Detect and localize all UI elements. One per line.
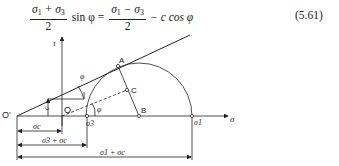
dashed-oc-line [62, 90, 127, 116]
sigma-label: σ [230, 114, 235, 124]
cohesion-label: c [42, 106, 51, 110]
phi-arc-top [78, 86, 84, 99]
dim-label-sigma-c: σc [33, 122, 41, 131]
label-b: B [141, 106, 146, 115]
point-sigma3 [85, 114, 88, 117]
failure-envelope-line [17, 35, 190, 116]
dim-label-sigma3-plus-sigma-c: σ3 + σc [42, 136, 67, 145]
mohr-coulomb-diagram: τ σ O' O A C B σ3 σ1 φ φ c σc σ3 + σc σ1… [0, 0, 339, 166]
mohr-circle-arc [86, 63, 192, 116]
phi-arc-bottom [92, 103, 95, 116]
dim-label-sigma1-plus-sigma-c: σ1 + σc [100, 148, 125, 157]
phi-label-top: φ [80, 72, 85, 81]
label-o-prime: O' [2, 110, 11, 120]
label-c: C [131, 86, 137, 95]
phi-label-bottom: φ [97, 105, 102, 114]
point-c [125, 88, 128, 91]
label-a: A [119, 56, 125, 65]
label-sigma3: σ3 [86, 119, 94, 128]
label-o: O [64, 105, 71, 115]
label-sigma1: σ1 [194, 118, 202, 127]
tau-label: τ [53, 39, 57, 48]
